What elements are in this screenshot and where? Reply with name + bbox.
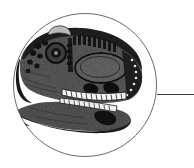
figure-container: Theropod dinosaur skull in circular vign… [0, 0, 194, 168]
skull-vignette-illustration [0, 0, 194, 168]
orbit-highlight [54, 51, 58, 55]
antorbital-fenestra [75, 53, 127, 83]
